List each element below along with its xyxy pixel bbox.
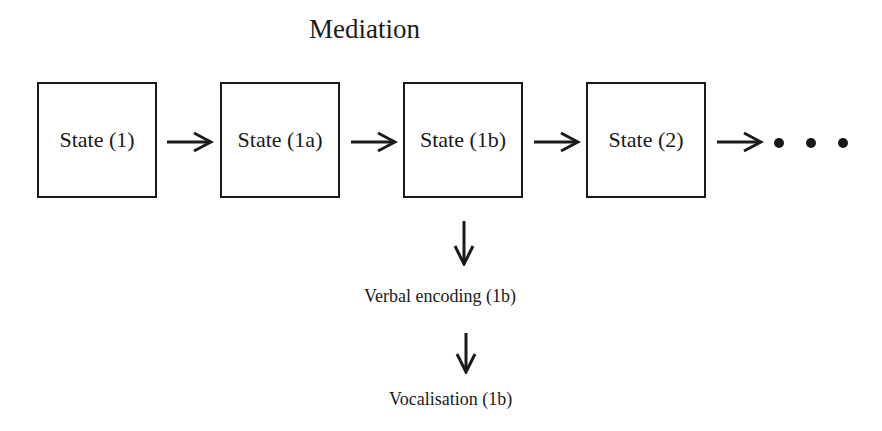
ellipsis-dot — [774, 138, 784, 148]
state-1-box: State (1) — [37, 82, 157, 198]
state-1b-label: State (1b) — [420, 127, 506, 153]
ellipsis-dot — [838, 138, 848, 148]
state-1a-box: State (1a) — [220, 82, 340, 198]
verbal-encoding-label: Verbal encoding (1b) — [364, 286, 516, 307]
down-arrow-icon — [452, 220, 476, 266]
right-arrow-icon — [350, 130, 398, 154]
ellipsis-dot — [806, 138, 816, 148]
right-arrow-icon — [166, 130, 214, 154]
state-2-label: State (2) — [608, 127, 683, 153]
vocalisation-label: Vocalisation (1b) — [389, 389, 512, 410]
state-1b-box: State (1b) — [403, 82, 523, 198]
right-arrow-icon — [533, 130, 581, 154]
right-arrow-icon — [716, 130, 764, 154]
state-1-label: State (1) — [59, 127, 134, 153]
down-arrow-icon — [454, 332, 478, 374]
state-2-box: State (2) — [586, 82, 706, 198]
diagram-title: Mediation — [309, 14, 420, 45]
state-1a-label: State (1a) — [238, 127, 323, 153]
